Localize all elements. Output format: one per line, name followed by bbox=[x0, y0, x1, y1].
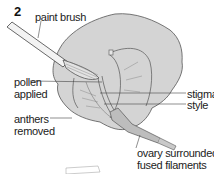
label-ovary: ovary surrounded by bbox=[137, 147, 214, 159]
label-applied: applied bbox=[14, 88, 47, 100]
pollination-diagram: 2 paint brush pollen applied anthers rem… bbox=[0, 0, 214, 174]
label-removed: removed bbox=[14, 125, 55, 137]
label-paint-brush: paint brush bbox=[35, 11, 86, 23]
label-anthers: anthers bbox=[14, 113, 49, 125]
label-style: style bbox=[187, 99, 208, 111]
label-fused-filaments: fused filaments bbox=[137, 159, 206, 171]
label-pollen: pollen bbox=[14, 76, 42, 88]
step-number: 2 bbox=[14, 4, 21, 19]
